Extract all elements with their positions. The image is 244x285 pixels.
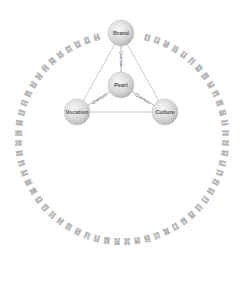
hexagram-glyph: ䷍	[218, 108, 228, 117]
hexagram-glyph: ䷑	[220, 149, 230, 157]
hexagram-glyph: ䷵	[27, 79, 38, 90]
hexagram-glyph: ䷼	[82, 35, 92, 46]
hexagram-glyph: ䷄	[162, 38, 172, 49]
hexagram-glyph: ䷃	[152, 35, 162, 46]
hexagram-glyph: ䷡	[102, 236, 110, 246]
hexagram-glyph: ䷙	[178, 216, 189, 227]
node-label-vocation: Vocation	[66, 109, 89, 115]
hexagram-glyph: ䷒	[218, 159, 228, 168]
hexagram-glyph: ䷴	[22, 88, 33, 98]
hexagram-glyph: ䷱	[14, 118, 24, 126]
hexagram-glyph: ䷽	[92, 32, 101, 42]
hexagram-glyph: ䷭	[16, 159, 26, 168]
hexagram-glyph: ䷬	[19, 168, 30, 178]
node-pearl: Pearl	[108, 72, 134, 98]
hexagram-glyph: ䷂	[143, 32, 152, 42]
hexagram-glyph: ䷶	[33, 70, 44, 81]
hexagram-glyph: ䷻	[73, 38, 83, 49]
hexagram-glyph: ䷦	[54, 216, 65, 227]
hexagram-glyph: ䷞	[133, 236, 141, 246]
hexagram-glyph: ䷰	[13, 129, 22, 136]
hexagram-glyph: ䷅	[170, 43, 181, 54]
hexagram-glyph: ䷘	[186, 209, 197, 220]
hexagram-glyph: ䷷	[39, 62, 50, 73]
hexagram-glyph: ䷜	[152, 231, 162, 242]
hexagram-glyph: ䷩	[33, 194, 44, 205]
node-brand: Brand	[108, 20, 134, 46]
edge-label-vocation-pearl: Quantum	[90, 92, 108, 106]
hexagram-glyph: ䷳	[19, 98, 30, 108]
hexagram-glyph: ䷗	[193, 202, 204, 213]
node-label-pearl: Pearl	[114, 82, 128, 88]
hexagram-glyph: ䷎	[220, 119, 230, 127]
hexagram-glyph: ䷟	[123, 237, 130, 246]
quantum-pearl-diagram: ䷂䷃䷄䷅䷆䷇䷈䷉䷊䷋䷌䷍䷎䷏䷐䷑䷒䷓䷔䷕䷖䷗䷘䷙䷚䷛䷜䷝䷞䷟䷠䷡䷢䷣䷤䷥䷦䷧䷨䷩…	[0, 0, 244, 285]
node-label-culture: Culture	[155, 109, 174, 115]
hexagram-glyph: ䷧	[46, 209, 57, 220]
hexagram-glyph: ䷲	[16, 108, 26, 117]
node-vocation: Vocation	[64, 99, 90, 125]
hexagram-glyph: ䷮	[14, 149, 24, 157]
hexagram-glyph: ䷊	[206, 79, 217, 90]
edge-label-brand-pearl: Quantum	[119, 50, 124, 68]
hexagram-glyph: ䷪	[27, 186, 38, 197]
hexagram-glyph: ䷫	[22, 177, 33, 187]
hexagram-glyph: ䷯	[13, 139, 22, 146]
hexagram-glyph: ䷖	[200, 195, 211, 206]
hexagram-glyph: ䷥	[63, 221, 74, 232]
hexagram-glyph: ䷤	[72, 226, 82, 237]
edge-label-pearl-culture: Quantum	[134, 92, 152, 106]
hexagram-glyph: ䷢	[92, 234, 101, 244]
node-culture: Culture	[152, 99, 178, 125]
hexagram-glyph: ䷓	[214, 168, 225, 178]
hexagram-glyph: ䷹	[55, 49, 66, 60]
hexagram-glyph: ䷠	[113, 237, 120, 246]
hexagram-glyph: ䷌	[215, 98, 226, 108]
hexagram-glyph: ䷋	[211, 89, 222, 99]
hexagram-glyph: ䷺	[63, 43, 74, 54]
hexagram-glyph: ䷨	[39, 202, 50, 213]
hexagram-glyph: ䷝	[143, 234, 152, 244]
hexagram-glyph: ䷕	[205, 186, 216, 197]
hexagram-glyph: ䷚	[170, 222, 181, 233]
hexagram-glyph: ䷣	[82, 230, 92, 241]
hexagram-glyph: ䷆	[179, 49, 190, 60]
hexagram-glyph: ䷈	[193, 63, 204, 74]
hexagram-glyph: ䷸	[47, 55, 58, 66]
hexagram-glyph: ䷇	[186, 55, 197, 66]
node-label-brand: Brand	[113, 30, 129, 36]
hexagram-glyph: ䷔	[210, 178, 221, 188]
hexagram-glyph: ䷐	[221, 140, 230, 147]
hexagram-glyph: ䷏	[221, 129, 230, 136]
hexagram-glyph: ䷉	[200, 71, 211, 82]
hexagram-glyph: ䷛	[161, 227, 171, 238]
